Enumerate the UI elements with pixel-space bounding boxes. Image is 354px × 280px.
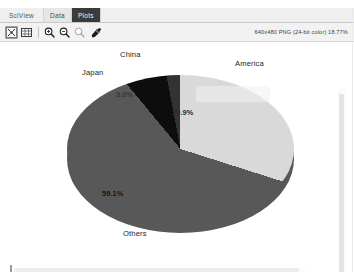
fit-icon (6, 27, 17, 38)
window-right-edge (352, 8, 353, 272)
fit-to-window-button[interactable] (5, 26, 18, 39)
slice-value-others: 59.1% (102, 189, 123, 198)
vertical-scrollbar[interactable] (338, 88, 345, 272)
tab-data[interactable]: Data (44, 8, 72, 22)
eyedropper-icon (91, 27, 102, 38)
tab-sciview[interactable]: SciView (0, 8, 44, 22)
tab-bar-filler (101, 8, 354, 22)
zoom-in-icon (44, 27, 55, 38)
zoom-in-button[interactable] (43, 26, 56, 39)
zoom-reset-button[interactable] (73, 26, 86, 39)
vertical-scrollbar-thumb[interactable] (339, 94, 344, 272)
zoom-out-icon (59, 27, 70, 38)
tab-plots[interactable]: Plots (72, 8, 101, 22)
plot-canvas[interactable]: 29.9% 59.1% 3.0% America China Japan Oth… (0, 42, 354, 272)
color-picker-button[interactable] (90, 26, 103, 39)
window-bottom-strip (0, 272, 354, 280)
plot-watermark (196, 86, 270, 102)
image-status-text: 640x480 PNG (24-bit color) 18.77% (254, 29, 350, 35)
grid-icon (21, 27, 32, 38)
slice-value-china: 3.0% (116, 90, 133, 99)
slice-label-others: Others (123, 229, 147, 238)
tab-plots-label: Plots (78, 12, 94, 19)
sciview-window: SciView Data Plots (0, 0, 354, 280)
grid-button[interactable] (20, 26, 33, 39)
slice-label-america: America (235, 59, 264, 68)
window-top-strip (0, 0, 354, 8)
zoom-reset-icon (74, 27, 85, 38)
tab-bar: SciView Data Plots (0, 8, 354, 23)
zoom-out-button[interactable] (58, 26, 71, 39)
tab-data-label: Data (50, 12, 65, 19)
slice-value-america: 29.9% (172, 108, 193, 117)
toolbar-separator (38, 27, 39, 38)
slice-label-china: China (120, 50, 141, 59)
plot-toolbar: 640x480 PNG (24-bit color) 18.77% (0, 23, 354, 42)
plot-image: 29.9% 59.1% 3.0% America China Japan Oth… (20, 46, 323, 254)
tab-sciview-label: SciView (9, 12, 34, 19)
slice-label-japan: Japan (82, 68, 103, 77)
